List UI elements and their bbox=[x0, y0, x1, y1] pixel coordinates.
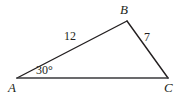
angle-measure-label-a: 30° bbox=[36, 64, 53, 76]
vertex-label-b: B bbox=[120, 3, 128, 16]
vertex-label-c: C bbox=[164, 81, 173, 94]
triangle-svg bbox=[0, 0, 187, 96]
vertex-label-a: A bbox=[8, 81, 16, 94]
side-length-label-ab: 12 bbox=[64, 30, 76, 42]
triangle-diagram: A B C 12 7 30° bbox=[0, 0, 187, 96]
side-length-label-bc: 7 bbox=[144, 31, 150, 43]
